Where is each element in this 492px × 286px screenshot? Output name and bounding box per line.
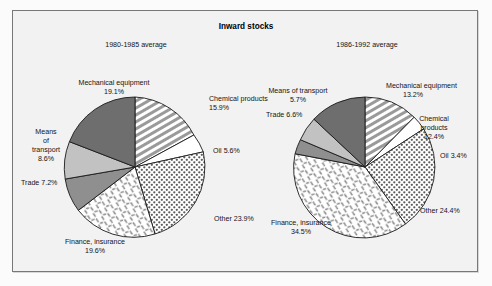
left-label-finance-value: 19.6% bbox=[85, 247, 106, 255]
right-label-transport-l2: 5.7% bbox=[290, 96, 307, 104]
right-label-trade: Trade 6.6% bbox=[266, 111, 303, 119]
page-title: Inward stocks bbox=[219, 22, 274, 31]
left-label-transport-l4: 8.6% bbox=[38, 155, 55, 163]
left-label-other: Other 23.9% bbox=[214, 215, 255, 223]
right-label-oil: Oil 3.4% bbox=[440, 152, 468, 160]
left-label-transport-l2: of bbox=[43, 137, 49, 145]
left-label-chemical-value: 15.9% bbox=[209, 104, 230, 112]
right-label-transport-l1: Means of transport bbox=[268, 87, 327, 95]
inward-stocks-pie-charts: Inward stocks 1980-1985 average Mechanic… bbox=[13, 11, 479, 271]
left-pie-chart: 1980-1985 average Mechanical equipment 1… bbox=[21, 41, 268, 255]
left-label-transport-l1: Means bbox=[35, 128, 57, 136]
right-label-chemical-l1: Chemical bbox=[419, 115, 449, 123]
left-label-chemical-name: Chemical products bbox=[209, 95, 268, 103]
left-label-trade: Trade 7.2% bbox=[21, 179, 58, 187]
right-label-mechanical-value: 13.2% bbox=[403, 91, 424, 99]
left-chart-subtitle: 1980-1985 average bbox=[105, 41, 167, 49]
left-label-mechanical-name: Mechanical equipment bbox=[79, 79, 150, 87]
right-pie-chart: 1986-1992 average Means of transport 5.7… bbox=[266, 41, 468, 238]
right-label-finance-value: 34.5% bbox=[291, 228, 312, 236]
right-label-other: Other 24.4% bbox=[420, 207, 461, 215]
chart-panel: Inward stocks 1980-1985 average Mechanic… bbox=[12, 10, 478, 272]
right-label-mechanical-name: Mechanical equipment bbox=[386, 82, 457, 90]
left-label-transport-l3: transport bbox=[32, 146, 60, 154]
right-label-chemical-l2: products bbox=[420, 124, 448, 132]
right-label-finance-name: Finance, insurance bbox=[271, 219, 331, 227]
right-chart-subtitle: 1986-1992 average bbox=[336, 41, 398, 49]
left-label-oil: Oil 5.6% bbox=[213, 147, 241, 155]
left-label-finance-name: Finance, insurance bbox=[65, 238, 125, 246]
right-label-chemical-l3: 12.4% bbox=[424, 133, 445, 141]
left-label-mechanical-value: 19.1% bbox=[104, 88, 125, 96]
